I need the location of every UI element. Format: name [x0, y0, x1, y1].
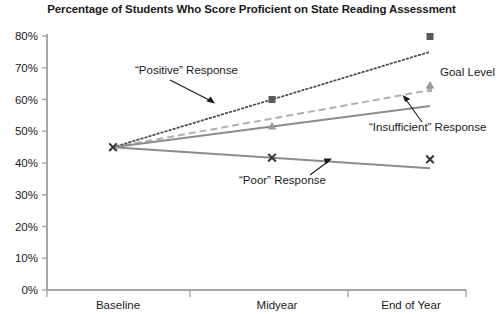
annotation-goal-level: Goal Level — [440, 66, 495, 78]
series-poor-response — [109, 143, 434, 168]
x-tick-label-midyear: Midyear — [257, 299, 298, 311]
annotation-label-insufficient-response: “Insufficient” Response — [369, 121, 486, 133]
x-axis-ticks — [47, 290, 466, 297]
x-tick-label-baseline: Baseline — [96, 299, 140, 311]
marker-poor-end-of-year — [426, 156, 434, 164]
y-tick-label-60: 60% — [15, 94, 38, 106]
y-tick-label-50: 50% — [15, 125, 38, 137]
y-tick-label-0: 0% — [21, 284, 38, 296]
y-tick-label-70: 70% — [15, 62, 38, 74]
annotation-positive-response: “Positive” Response — [135, 64, 238, 104]
x-tick-label-end-of-year: End of Year — [381, 299, 441, 311]
annotation-label-poor-response: “Poor” Response — [239, 174, 326, 186]
chart-container: Percentage of Students Who Score Profici… — [0, 0, 503, 314]
y-tick-label-20: 20% — [15, 221, 38, 233]
chart-plot: 0% 10% 20% 30% 40% 50% 60% 70% 80% Basel… — [0, 0, 503, 314]
y-tick-label-10: 10% — [15, 252, 38, 264]
series-insufficient-response — [113, 81, 434, 147]
marker-positive-midyear — [269, 96, 276, 103]
y-tick-label-40: 40% — [15, 157, 38, 169]
annotation-label-goal-level: Goal Level — [440, 66, 495, 78]
x-axis-tick-labels: Baseline Midyear End of Year — [96, 299, 441, 311]
annotation-arrow-head-positive — [207, 96, 216, 103]
annotation-poor-response: “Poor” Response — [239, 159, 332, 187]
annotation-arrow-head-insufficient — [403, 95, 411, 102]
y-axis-tick-labels: 0% 10% 20% 30% 40% 50% 60% 70% 80% — [15, 30, 38, 296]
y-tick-label-80: 80% — [15, 30, 38, 42]
annotation-insufficient-response: “Insufficient” Response — [369, 95, 486, 133]
marker-positive-end-of-year — [427, 33, 434, 40]
annotation-label-positive-response: “Positive” Response — [135, 64, 238, 76]
marker-insufficient-end-of-year — [426, 81, 435, 89]
annotation-arrow-line-positive — [170, 80, 213, 102]
y-tick-label-30: 30% — [15, 189, 38, 201]
